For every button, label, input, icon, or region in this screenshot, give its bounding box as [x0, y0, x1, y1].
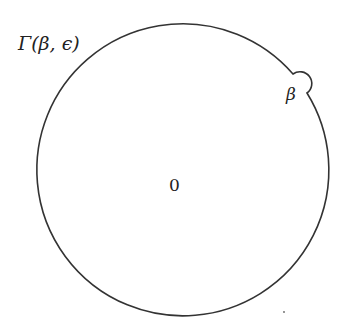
contour-path — [37, 24, 329, 316]
stray-dot — [283, 311, 285, 313]
origin-label: 0 — [169, 177, 180, 194]
contour-label: Γ(β, ϵ) — [18, 34, 80, 53]
point-label-beta: β — [286, 86, 296, 103]
